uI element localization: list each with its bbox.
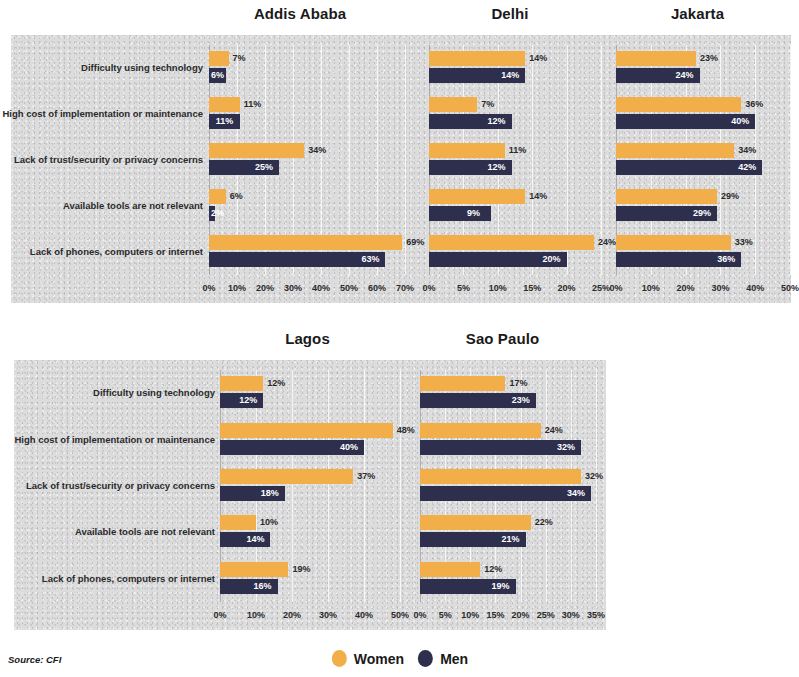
xtick-4: 40%: [312, 283, 330, 293]
bar-value-men-3: 21%: [502, 532, 520, 547]
bar-women-4: [209, 235, 402, 250]
bar-value-women-1: 36%: [745, 97, 763, 112]
xtick-7: 35%: [587, 610, 605, 620]
xtick-5: 25%: [592, 283, 610, 293]
category-label-1: High cost of implementation or maintenan…: [2, 109, 203, 119]
bar-women-1: [429, 97, 477, 112]
chart-title-delhi: Delhi: [425, 5, 595, 22]
chart-title-addis-ababa: Addis Ababa: [200, 5, 400, 22]
bar-value-women-1: 48%: [397, 423, 415, 438]
plot-delhi: 14%7%11%14%24%14%12%12%9%20%: [429, 45, 601, 275]
legend-swatch-women-icon: [332, 650, 347, 667]
xtick-1: 5%: [439, 610, 452, 620]
category-label-3: Available tools are not relevant: [63, 201, 203, 211]
xtick-2: 20%: [256, 283, 274, 293]
xtick-4: 40%: [355, 610, 373, 620]
bar-value-men-4: 63%: [361, 252, 379, 267]
bar-women-0: [420, 376, 505, 391]
bar-women-0: [616, 51, 696, 66]
xtick-0: 0%: [422, 283, 435, 293]
bar-women-2: [429, 143, 505, 158]
bar-value-women-3: 6%: [230, 189, 243, 204]
bar-value-men-4: 20%: [543, 252, 561, 267]
category-label-3: Available tools are not relevant: [75, 528, 215, 538]
bar-value-men-0: 6%: [211, 68, 224, 83]
bar-value-men-0: 12%: [239, 393, 257, 408]
bar-women-3: [220, 515, 256, 530]
bar-women-4: [220, 562, 288, 577]
bar-value-men-4: 36%: [717, 252, 735, 267]
bar-men-3: [429, 206, 491, 221]
gridline-3: [328, 370, 329, 602]
legend-item-men: Men: [418, 650, 468, 667]
bar-value-men-3: 2%: [211, 206, 224, 221]
bar-value-women-4: 12%: [484, 562, 502, 577]
bar-women-2: [209, 143, 304, 158]
xtick-1: 10%: [247, 610, 265, 620]
category-label-2: Lack of trust/security or privacy concer…: [26, 481, 215, 491]
bar-value-men-2: 12%: [488, 160, 506, 175]
gridline-7: [596, 370, 597, 602]
xtick-5: 50%: [340, 283, 358, 293]
xtick-6: 30%: [562, 610, 580, 620]
xtick-2: 10%: [489, 283, 507, 293]
plot-lagos: 12%48%37%10%19%12%40%18%14%16%: [220, 370, 400, 602]
xtick-7: 70%: [396, 283, 414, 293]
bar-women-2: [220, 469, 353, 484]
source-note: Source: CFI: [8, 654, 61, 665]
bar-value-men-1: 11%: [216, 114, 234, 129]
bar-value-men-4: 16%: [254, 579, 272, 594]
bar-value-women-1: 11%: [244, 97, 262, 112]
bar-value-women-4: 33%: [735, 235, 753, 250]
legend-label-women: Women: [354, 651, 404, 667]
bar-value-women-4: 19%: [292, 562, 310, 577]
bar-value-women-3: 22%: [535, 515, 553, 530]
gridline-4: [364, 370, 365, 602]
xtick-2: 20%: [677, 283, 695, 293]
bar-women-2: [420, 469, 581, 484]
bar-value-men-0: 14%: [501, 68, 519, 83]
bar-value-men-2: 25%: [255, 160, 273, 175]
bar-value-women-4: 24%: [598, 235, 616, 250]
xaxis-sao-paulo: 0%5%10%15%20%25%30%35%: [420, 610, 596, 624]
bar-value-women-0: 12%: [267, 376, 285, 391]
bar-value-men-2: 42%: [738, 160, 756, 175]
xtick-3: 15%: [523, 283, 541, 293]
category-label-4: Lack of phones, computers or internet: [30, 247, 203, 257]
legend-item-women: Women: [332, 650, 404, 667]
xtick-3: 15%: [486, 610, 504, 620]
chart-title-jakarta: Jakarta: [610, 5, 785, 22]
category-label-0: Difficulty using technology: [81, 63, 203, 73]
bar-men-2: [420, 486, 591, 501]
gridline-5: [790, 45, 791, 275]
xtick-6: 60%: [368, 283, 386, 293]
xaxis-jakarta: 0%10%20%30%40%50%: [616, 283, 790, 297]
bar-value-women-0: 7%: [233, 51, 246, 66]
xtick-0: 0%: [609, 283, 622, 293]
bar-value-women-2: 37%: [357, 469, 375, 484]
bar-value-men-3: 29%: [693, 206, 711, 221]
legend-swatch-men-icon: [418, 650, 433, 667]
bar-value-women-1: 7%: [481, 97, 494, 112]
bar-women-2: [616, 143, 734, 158]
bar-women-1: [209, 97, 240, 112]
chart-title-sao-paulo: Sao Paulo: [405, 330, 600, 347]
chart-title-lagos: Lagos: [215, 330, 400, 347]
xtick-3: 30%: [319, 610, 337, 620]
bar-value-women-1: 24%: [545, 423, 563, 438]
bar-value-women-3: 14%: [529, 189, 547, 204]
bar-women-1: [420, 423, 541, 438]
category-label-2: Lack of trust/security or privacy concer…: [14, 155, 203, 165]
bar-value-men-1: 12%: [488, 114, 506, 129]
xtick-5: 50%: [391, 610, 409, 620]
bar-value-men-1: 32%: [557, 440, 575, 455]
bar-value-women-3: 29%: [721, 189, 739, 204]
xtick-1: 10%: [228, 283, 246, 293]
xtick-5: 25%: [537, 610, 555, 620]
xtick-2: 10%: [461, 610, 479, 620]
xtick-3: 30%: [284, 283, 302, 293]
bar-value-women-3: 10%: [260, 515, 278, 530]
bar-women-1: [616, 97, 741, 112]
category-label-4: Lack of phones, computers or internet: [42, 574, 215, 584]
xtick-1: 5%: [457, 283, 470, 293]
